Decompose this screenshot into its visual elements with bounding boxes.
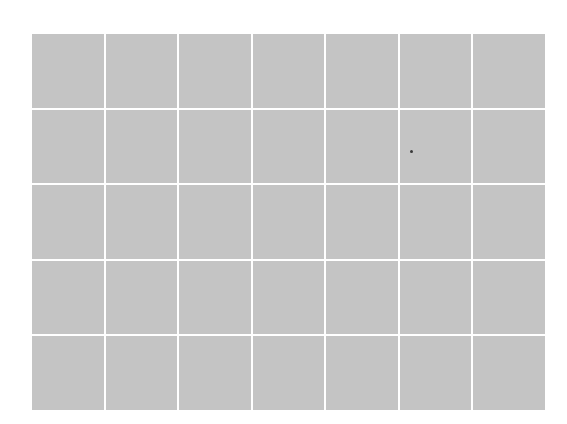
grid-cell: [32, 261, 104, 335]
grid-cell: [179, 110, 251, 184]
grid-cell: [106, 261, 178, 335]
grid-cell: [326, 261, 398, 335]
grid-cell: [106, 185, 178, 259]
grid-cell: [473, 261, 545, 335]
grid-cell: [473, 185, 545, 259]
grid-cell: [32, 336, 104, 410]
grid-cell: [179, 261, 251, 335]
grid-cell: [400, 261, 472, 335]
grid-cell: [326, 110, 398, 184]
grid-cell: [32, 185, 104, 259]
grid-cell: [32, 110, 104, 184]
grid-cell: [179, 34, 251, 108]
grid-cell: [179, 185, 251, 259]
grid-cell: [106, 336, 178, 410]
grid-cell: [253, 185, 325, 259]
grid-cell: [32, 34, 104, 108]
grid-cell: [326, 185, 398, 259]
grid-cell: [473, 336, 545, 410]
grid-cell: [473, 110, 545, 184]
grid-cell: [253, 110, 325, 184]
grid-cell: [326, 34, 398, 108]
grid-cell: [179, 336, 251, 410]
dot-marker: [410, 150, 413, 153]
grid-cell: [106, 34, 178, 108]
grid-cell: [400, 110, 472, 184]
grid-cell: [473, 34, 545, 108]
grid-cell: [253, 34, 325, 108]
grid-cell: [253, 336, 325, 410]
tile-grid: [32, 34, 545, 410]
grid-cell: [400, 185, 472, 259]
grid-cell: [400, 336, 472, 410]
grid-cell: [253, 261, 325, 335]
grid-cell: [106, 110, 178, 184]
grid-cell: [400, 34, 472, 108]
grid-cell: [326, 336, 398, 410]
